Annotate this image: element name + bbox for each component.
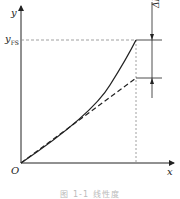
y-axis-label: y [11, 8, 17, 18]
actual-characteristic-curve [21, 40, 136, 163]
delta-label-main: ΔL [151, 0, 161, 8]
delta-max-label: ΔLmax [152, 0, 162, 8]
x-axis-label: x [167, 167, 173, 177]
y-fs-label: yFS [5, 34, 19, 46]
delta-arrow-up-icon [150, 78, 154, 84]
delta-arrow-down-icon [150, 34, 154, 40]
linearity-diagram [0, 0, 180, 199]
origin-label: O [11, 166, 19, 176]
y-fs-label-sub: FS [11, 39, 19, 46]
figure-caption: 图 1-1 线性度 [0, 188, 180, 199]
